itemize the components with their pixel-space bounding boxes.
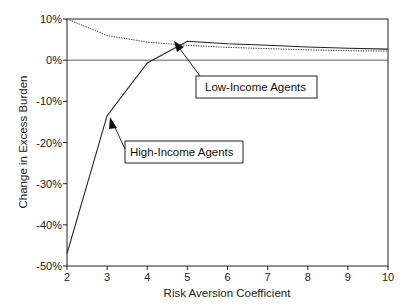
series-lines	[67, 19, 388, 254]
y-tick-label: 10%	[40, 13, 62, 25]
x-tick-label: 7	[265, 271, 271, 283]
x-tick-label: 8	[305, 271, 311, 283]
arrow-head-icon	[174, 41, 184, 52]
x-axis-title: Risk Aversion Coefficient	[164, 287, 292, 299]
x-tick-label: 3	[104, 271, 110, 283]
y-tick-label: -40%	[36, 219, 62, 231]
x-tick-label: 10	[382, 271, 394, 283]
y-axis-title: Change in Excess Burden	[17, 76, 29, 209]
series-low-income-agents	[67, 19, 388, 51]
annotation-label: High-Income Agents	[130, 146, 234, 158]
x-axis: 2345678910	[64, 266, 394, 283]
x-tick-label: 5	[184, 271, 190, 283]
y-tick-label: 0%	[46, 54, 62, 66]
x-tick-label: 6	[224, 271, 230, 283]
line-chart: 10%0%-10%-20%-30%-40%-50% 2345678910 Low…	[0, 0, 405, 308]
y-tick-label: -50%	[36, 260, 62, 272]
arrow-head-icon	[109, 117, 117, 129]
annotation-label: Low-Income Agents	[205, 81, 306, 93]
x-tick-label: 9	[345, 271, 351, 283]
y-axis: 10%0%-10%-20%-30%-40%-50%	[36, 13, 67, 272]
x-tick-label: 2	[64, 271, 70, 283]
x-tick-label: 4	[144, 271, 150, 283]
annotation-high-income: High-Income Agents	[109, 117, 243, 163]
y-tick-label: -20%	[36, 137, 62, 149]
annotations: Low-Income Agents High-Income Agents	[109, 41, 317, 163]
y-tick-label: -10%	[36, 95, 62, 107]
y-tick-label: -30%	[36, 178, 62, 190]
